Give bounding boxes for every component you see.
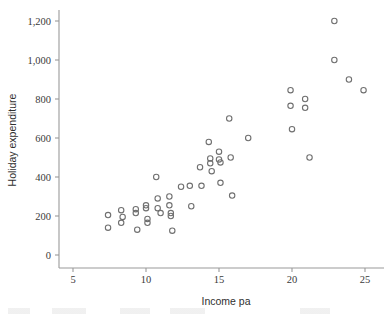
data-point <box>145 220 150 225</box>
data-point <box>302 96 307 101</box>
data-point <box>158 210 163 215</box>
data-point <box>135 227 140 232</box>
data-point <box>105 225 110 230</box>
y-axis: 02004006008001,0001,200 <box>27 10 59 268</box>
data-point <box>209 168 214 173</box>
data-point <box>155 196 160 201</box>
x-tick-label: 15 <box>214 274 225 285</box>
data-point <box>246 135 251 140</box>
data-point <box>118 220 123 225</box>
data-point <box>105 212 110 217</box>
y-tick-label: 200 <box>35 211 51 222</box>
x-axis-title: Income pa <box>201 295 250 307</box>
data-point <box>167 194 172 199</box>
data-point <box>154 174 159 179</box>
data-point <box>288 88 293 93</box>
data-point <box>229 193 234 198</box>
data-point <box>118 207 123 212</box>
page-text-bleed <box>0 308 392 314</box>
data-point <box>120 214 125 219</box>
plot-area: 02004006008001,0001,200 510152025 Income… <box>0 0 392 314</box>
data-point <box>206 139 211 144</box>
data-point <box>218 180 223 185</box>
data-point <box>302 105 307 110</box>
data-point <box>332 18 337 23</box>
data-point <box>216 149 221 154</box>
data-point <box>228 155 233 160</box>
data-point <box>189 204 194 209</box>
x-tick-label: 25 <box>360 274 371 285</box>
y-tick-label: 0 <box>46 250 51 261</box>
data-point <box>307 155 312 160</box>
data-point <box>346 77 351 82</box>
data-point <box>361 88 366 93</box>
data-point <box>227 116 232 121</box>
data-point <box>178 184 183 189</box>
x-axis: 510152025 <box>59 268 384 285</box>
data-point <box>187 183 192 188</box>
scatter-chart: 02004006008001,0001,200 510152025 Income… <box>0 0 392 314</box>
y-tick-label: 1,200 <box>27 16 51 27</box>
data-point <box>289 127 294 132</box>
data-point <box>288 103 293 108</box>
x-tick-label: 10 <box>141 274 152 285</box>
data-point <box>197 165 202 170</box>
data-point <box>170 228 175 233</box>
x-tick-label: 5 <box>70 274 75 285</box>
data-points <box>105 18 366 233</box>
y-tick-label: 1,000 <box>27 55 51 66</box>
data-point <box>199 183 204 188</box>
x-tick-label: 20 <box>287 274 298 285</box>
y-tick-label: 400 <box>35 172 51 183</box>
data-point <box>167 203 172 208</box>
y-tick-label: 600 <box>35 133 51 144</box>
y-tick-label: 800 <box>35 94 51 105</box>
data-point <box>332 57 337 62</box>
data-point <box>133 210 138 215</box>
y-axis-title: Holiday expenditure <box>6 93 18 186</box>
